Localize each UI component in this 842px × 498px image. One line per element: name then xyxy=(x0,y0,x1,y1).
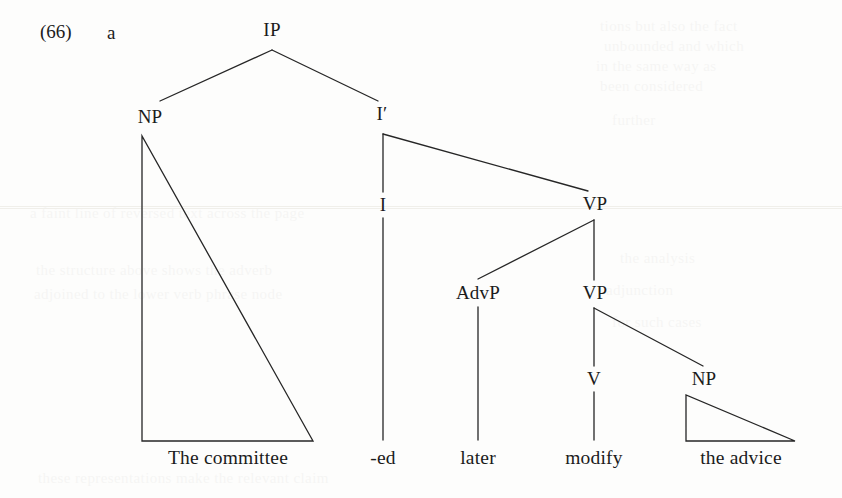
node-label-ip: IP xyxy=(263,19,280,41)
node-label-np2: NP xyxy=(692,368,717,390)
syntax-tree-graphic xyxy=(0,0,842,498)
tree-edges xyxy=(160,50,703,440)
node-label-np1: NP xyxy=(138,106,163,128)
t-object: the advice xyxy=(700,447,782,469)
edge-ip-np xyxy=(160,50,272,101)
edge-vp-advp xyxy=(478,220,594,279)
node-label-v: V xyxy=(587,368,601,390)
triangle-subject xyxy=(142,136,313,441)
edge-ip-ibar xyxy=(272,50,378,101)
t-verb: modify xyxy=(565,447,623,469)
node-label-ibar: I′ xyxy=(377,103,388,125)
edge-ibar-vp xyxy=(383,134,588,191)
node-label-advp: AdvP xyxy=(456,282,500,304)
t-adverb: later xyxy=(460,447,496,469)
node-label-vp1: VP xyxy=(583,193,608,215)
triangle-object xyxy=(686,395,795,441)
edge-vp2-np xyxy=(594,308,703,366)
node-label-i: I xyxy=(380,194,387,216)
node-label-vp2: VP xyxy=(583,282,608,304)
t-tense: -ed xyxy=(370,447,396,469)
page-canvas: tions but also the factunbounded and whi… xyxy=(0,0,842,498)
t-subject: The committee xyxy=(168,447,288,469)
